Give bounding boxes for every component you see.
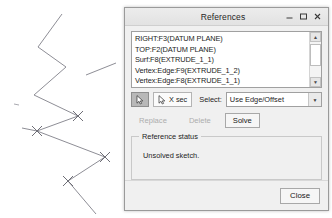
scroll-down-icon[interactable]: ▼ [310,77,321,87]
xsec-button-label: X sec [169,95,187,104]
list-item[interactable]: TOP:F2(DATUM PLANE) [135,45,309,56]
cursor-arrow-icon [158,95,166,105]
pick-reference-button[interactable] [131,92,149,107]
window-controls [285,12,328,21]
close-icon[interactable] [313,12,322,21]
list-item[interactable]: Surf:F8(EXTRUDE_1_1) [135,55,309,66]
maximize-icon[interactable] [299,12,308,21]
references-list[interactable]: RIGHT:F3(DATUM PLANE) TOP:F2(DATUM PLANE… [132,32,309,87]
list-scrollbar[interactable]: ▲ ▼ [309,32,321,87]
minimize-icon[interactable] [285,12,294,21]
sketch-open-segment [86,63,116,75]
list-item[interactable]: Vertex:Edge:F8(EXTRUDE_1_1) [135,76,309,87]
select-dropdown-value: Use Edge/Offset [227,95,308,104]
list-item[interactable]: Vertex:Edge:F9(EXTRUDE_1_2) [135,66,309,77]
solve-button[interactable]: Solve [225,113,260,128]
replace-button: Replace [131,113,175,128]
select-dropdown[interactable]: Use Edge/Offset ▼ [226,92,322,107]
scroll-thumb[interactable] [310,44,321,66]
vertex-marker-group [32,111,110,186]
action-button-row: Replace Delete Solve [131,113,322,128]
dialog-body: RIGHT:F3(DATUM PLANE) TOP:F2(DATUM PLANE… [125,26,328,180]
cursor-arrow-icon [136,95,144,105]
selection-toolbar: X sec Select: Use Edge/Offset ▼ [131,92,322,107]
sketch-polyline [34,14,105,214]
delete-button: Delete [181,113,219,128]
list-item[interactable]: RIGHT:F3(DATUM PLANE) [135,34,309,45]
sketch-tick-left [14,104,19,105]
dialog-titlebar[interactable]: References [125,8,328,26]
select-label: Select: [199,95,222,104]
scroll-up-icon[interactable]: ▲ [310,32,321,42]
xsec-button[interactable]: X sec [153,92,192,107]
dialog-footer: Close [125,180,328,210]
references-listbox[interactable]: RIGHT:F3(DATUM PLANE) TOP:F2(DATUM PLANE… [131,31,322,88]
reference-status-title: Reference status [139,132,201,141]
chevron-down-icon[interactable]: ▼ [308,93,321,106]
close-button[interactable]: Close [280,188,320,204]
reference-status-group: Reference status Unsolved sketch. [131,136,322,180]
dialog-title: References [125,12,285,22]
references-dialog[interactable]: References RIGHT:F3(DATUM PLANE) TOP:F2(… [124,7,329,211]
